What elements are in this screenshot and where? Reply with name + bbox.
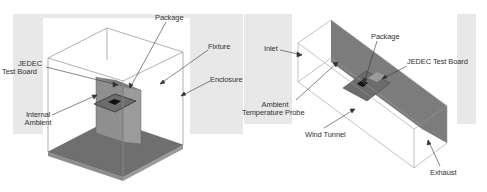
- label-exhaust: Exhaust: [430, 169, 456, 178]
- label-inlet: Inlet: [264, 45, 278, 54]
- wind-tunnel-drawing: [242, 0, 487, 192]
- label-jedec-test-board: JEDEC Test Board: [407, 58, 468, 67]
- label-package: Package: [155, 14, 184, 23]
- label-fixture: Fixture: [208, 43, 230, 52]
- enclosure-diagram: Package JEDEC Test Board Fixture Enclosu…: [0, 0, 245, 192]
- label-package: Package: [371, 33, 400, 42]
- label-jedec-line2: Test Board: [2, 68, 37, 77]
- label-wind-tunnel: Wind Tunnel: [305, 131, 346, 140]
- wind-tunnel-diagram: Inlet Package JEDEC Test Board Ambient T…: [242, 0, 487, 192]
- label-enclosure: Enclosure: [210, 76, 242, 85]
- label-temperature-probe: Temperature Probe: [242, 109, 305, 118]
- enclosure-drawing: [0, 0, 245, 192]
- label-ambient: Ambient: [20, 119, 56, 128]
